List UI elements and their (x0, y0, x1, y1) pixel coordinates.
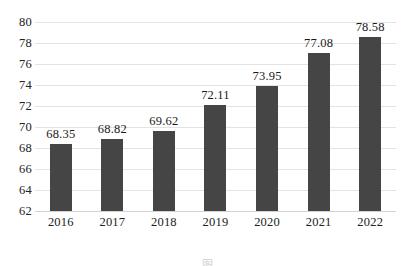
x-axis-tick-label: 2022 (357, 216, 383, 229)
bar-group: 68.82 (87, 22, 139, 211)
bar-group: 68.35 (35, 22, 87, 211)
bar-chart-figure: 80787674727068666462 68.3568.8269.6272.1… (0, 0, 415, 266)
y-axis-tick-label: 66 (2, 163, 32, 176)
y-axis-tick-label: 72 (2, 100, 32, 113)
bar-value-label: 72.11 (201, 89, 230, 102)
bar-value-label: 69.62 (149, 115, 178, 128)
bar-group: 78.58 (344, 22, 396, 211)
bar-value-label: 77.08 (304, 37, 333, 50)
bar (153, 131, 175, 211)
bar (308, 53, 330, 211)
bar-value-label: 68.82 (98, 123, 127, 136)
bar-value-label: 78.58 (356, 21, 385, 34)
x-axis-tick-label: 2020 (254, 216, 280, 229)
y-axis-tick-label: 76 (2, 58, 32, 71)
bar-group: 77.08 (293, 22, 345, 211)
bar-value-label: 73.95 (253, 70, 282, 83)
y-axis-tick-label: 80 (2, 16, 32, 29)
bar (204, 105, 226, 211)
y-axis-tick-label: 70 (2, 121, 32, 134)
y-axis-tick-label: 64 (2, 184, 32, 197)
y-axis-tick-label: 62 (2, 205, 32, 218)
bar-value-label: 68.35 (46, 128, 75, 141)
gridline (35, 211, 396, 212)
x-axis-tick-label: 2021 (306, 216, 332, 229)
y-axis-tick-label: 68 (2, 142, 32, 155)
bar (50, 144, 72, 211)
bar (101, 139, 123, 211)
x-axis-tick-label: 2017 (99, 216, 125, 229)
bars-layer: 68.3568.8269.6272.1173.9577.0878.58 (35, 22, 396, 211)
plot-area: 68.3568.8269.6272.1173.9577.0878.58 (35, 22, 396, 211)
bar (359, 37, 381, 211)
x-axis-tick-label: 2019 (203, 216, 229, 229)
bar-group: 69.62 (138, 22, 190, 211)
bar (256, 86, 278, 211)
figure-caption: 图 (0, 259, 415, 266)
y-axis-tick-label: 74 (2, 79, 32, 92)
y-axis-tick-label: 78 (2, 37, 32, 50)
x-axis-tick-label: 2016 (48, 216, 74, 229)
bar-group: 72.11 (190, 22, 242, 211)
x-axis-tick-label: 2018 (151, 216, 177, 229)
bar-group: 73.95 (241, 22, 293, 211)
